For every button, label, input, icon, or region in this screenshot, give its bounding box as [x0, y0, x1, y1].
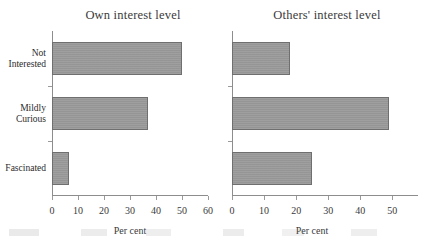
- chart-panel-others-interest: Others' interest level Per cent 01020304…: [214, 0, 428, 240]
- panel-title-others-interest: Others' interest level: [214, 8, 428, 23]
- x-tick-label-left-40: 40: [151, 205, 161, 216]
- x-tick-label-right-50: 50: [387, 205, 397, 216]
- bar-row: [232, 152, 418, 185]
- bar-right-1[interactable]: [232, 97, 389, 130]
- x-tick-left-0: [52, 196, 53, 200]
- category-label-1: Mildly Curious: [0, 103, 46, 125]
- x-tick-label-right-20: 20: [291, 205, 301, 216]
- y-tick-right-0: [228, 86, 232, 87]
- bar-right-0[interactable]: [232, 42, 290, 75]
- x-tick-right-10: [264, 196, 265, 200]
- x-tick-label-left-50: 50: [177, 205, 187, 216]
- x-tick-label-right-40: 40: [355, 205, 365, 216]
- plot-area-others-interest: Per cent 01020304050: [232, 31, 418, 196]
- x-tick-label-left-20: 20: [99, 205, 109, 216]
- y-tick-left-0: [48, 86, 52, 87]
- x-tick-left-40: [156, 196, 157, 200]
- bar-left-2[interactable]: [52, 152, 69, 185]
- x-tick-right-20: [296, 196, 297, 200]
- chart-panel-own-interest: Own interest level Per cent 010203040506…: [0, 0, 214, 240]
- bar-right-2[interactable]: [232, 152, 312, 185]
- x-axis-title-left: Per cent: [52, 225, 208, 236]
- x-tick-left-60: [208, 196, 209, 200]
- x-tick-label-right-10: 10: [259, 205, 269, 216]
- x-tick-left-10: [78, 196, 79, 200]
- x-tick-label-right-30: 30: [323, 205, 333, 216]
- x-tick-right-30: [328, 196, 329, 200]
- plot-area-own-interest: Per cent 0102030405060Not InterestedMild…: [52, 31, 208, 196]
- category-label-2: Fascinated: [0, 163, 46, 174]
- x-axis-line-right: [232, 195, 418, 196]
- x-tick-right-0: [232, 196, 233, 200]
- figure-container: Own interest level Per cent 010203040506…: [0, 0, 428, 240]
- x-tick-label-left-30: 30: [125, 205, 135, 216]
- x-tick-left-50: [182, 196, 183, 200]
- bar-row: Not Interested: [52, 42, 208, 75]
- y-tick-right-1: [228, 141, 232, 142]
- bar-left-0[interactable]: [52, 42, 182, 75]
- x-tick-label-left-0: 0: [50, 205, 55, 216]
- x-axis-title-right: Per cent: [232, 225, 418, 236]
- x-tick-left-20: [104, 196, 105, 200]
- x-tick-label-left-60: 60: [203, 205, 213, 216]
- x-tick-right-40: [360, 196, 361, 200]
- x-tick-left-30: [130, 196, 131, 200]
- bar-row: [232, 97, 418, 130]
- x-tick-right-50: [392, 196, 393, 200]
- panel-title-own-interest: Own interest level: [0, 8, 240, 23]
- bar-row: Mildly Curious: [52, 97, 208, 130]
- bar-left-1[interactable]: [52, 97, 148, 130]
- category-label-0: Not Interested: [0, 48, 46, 70]
- x-tick-label-right-0: 0: [230, 205, 235, 216]
- bar-row: Fascinated: [52, 152, 208, 185]
- y-tick-left-1: [48, 141, 52, 142]
- x-tick-label-left-10: 10: [73, 205, 83, 216]
- bar-row: [232, 42, 418, 75]
